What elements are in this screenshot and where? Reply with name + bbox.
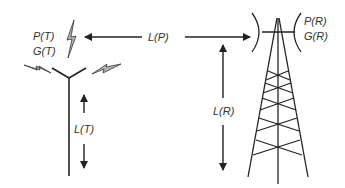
signal-bolt-left-icon (24, 65, 51, 73)
signal-bolt-right-icon (92, 64, 121, 74)
diagram-canvas (0, 0, 345, 188)
signal-bolt-icon (67, 20, 76, 58)
receiver-height-label: L(R) (213, 105, 234, 117)
receiver-gain-label: G(R) (304, 30, 328, 42)
transmitter-power-label: P(T) (33, 30, 54, 42)
receiver-power-label: P(R) (304, 15, 327, 27)
transmitter-height-label: L(T) (74, 123, 94, 135)
transmitter-antenna (52, 68, 86, 176)
receiver-tower (248, 13, 308, 184)
transmitter-gain-label: G(T) (33, 45, 56, 57)
path-length-label: L(P) (148, 31, 169, 43)
